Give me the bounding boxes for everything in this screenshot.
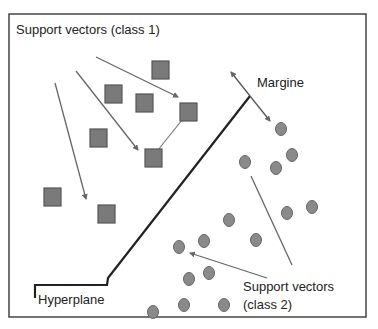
class2-circle-point (179, 299, 190, 312)
class2-circle-point (224, 214, 235, 227)
support-vector-arrow-class2 (190, 253, 267, 278)
class1-square-point (105, 85, 122, 103)
support-vector-arrow-class1 (55, 83, 86, 199)
margin-arrow (231, 72, 250, 96)
class2-circle-point (184, 273, 195, 286)
class2-circle-point (240, 156, 251, 169)
class2-circle-point (287, 149, 298, 162)
class2-circle-point (271, 162, 282, 175)
label-margin: Margine (257, 75, 304, 90)
class1-square-point (90, 129, 107, 147)
diagram-frame (9, 14, 366, 317)
class1-square-point (98, 205, 115, 223)
class1-square-point (180, 103, 197, 121)
class1-points (44, 61, 197, 223)
margin-arrow (250, 96, 270, 121)
class2-circle-point (204, 267, 215, 280)
class2-circle-point (276, 123, 287, 136)
support-vector-link (158, 120, 182, 150)
class1-square-point (145, 149, 162, 167)
class1-square-point (152, 61, 169, 79)
class2-circle-point (199, 235, 210, 248)
label-support-vectors-class1: Support vectors (class 1) (16, 22, 160, 37)
label-support-vectors-class2-sub: (class 2) (243, 297, 292, 312)
class2-circle-point (174, 241, 185, 254)
label-hyperplane: Hyperplane (38, 292, 105, 307)
class2-circle-point (251, 234, 262, 247)
support-vector-arrow-class2 (251, 176, 292, 265)
class2-circle-point (148, 306, 159, 319)
class2-circle-point (282, 207, 293, 220)
class2-circle-point (307, 201, 318, 214)
class1-square-point (44, 188, 61, 206)
class2-circle-point (219, 299, 230, 312)
class1-square-point (136, 94, 153, 112)
hyperplane-line (35, 96, 250, 298)
label-support-vectors-class2: Support vectors (243, 279, 334, 294)
